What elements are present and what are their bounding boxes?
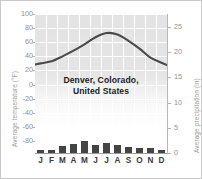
- month-label: F: [46, 156, 57, 165]
- left-tick-label: 60: [17, 38, 33, 45]
- left-tick-label: 80: [17, 24, 33, 31]
- left-tick-label: 0: [17, 81, 33, 88]
- right-tick-label: 5: [174, 124, 178, 131]
- precipitation-bar: [114, 145, 121, 153]
- right-axis-spine: [167, 14, 168, 154]
- location-line-2: United States: [35, 86, 167, 97]
- right-tick-mark: [168, 128, 171, 129]
- month-label: A: [68, 156, 79, 165]
- left-tick-label: -20: [17, 95, 33, 102]
- right-tick-mark: [168, 153, 171, 154]
- right-tick-mark: [168, 103, 171, 104]
- right-tick-mark: [168, 52, 171, 53]
- left-tick-label: 20: [17, 66, 33, 73]
- precipitation-bar: [103, 143, 110, 153]
- precipitation-bar: [92, 145, 99, 153]
- climate-chart: Average temperature (°F) Average precipi…: [0, 0, 202, 179]
- right-tick-label: 25: [174, 23, 182, 30]
- location-annotation: Denver, Colorado, United States: [35, 75, 167, 96]
- left-tick-label: -80: [17, 137, 33, 144]
- month-label: D: [156, 156, 167, 165]
- left-tick-label: 40: [17, 52, 33, 59]
- x-axis-baseline: [35, 153, 168, 154]
- month-label: J: [101, 156, 112, 165]
- right-tick-label: 15: [174, 73, 182, 80]
- month-label: N: [145, 156, 156, 165]
- left-axis-ticks: 100806040200-20-40-60-80: [15, 1, 33, 179]
- month-label: J: [35, 156, 46, 165]
- month-label: A: [112, 156, 123, 165]
- right-tick-label: 20: [174, 48, 182, 55]
- month-label: M: [57, 156, 68, 165]
- right-tick-mark: [168, 27, 171, 28]
- right-tick-mark: [168, 77, 171, 78]
- left-tick-label: 100: [17, 10, 33, 17]
- month-label: J: [90, 156, 101, 165]
- right-tick-label: 10: [174, 99, 182, 106]
- month-label: M: [79, 156, 90, 165]
- right-axis-title: Average precipitation (in): [193, 78, 200, 153]
- month-label: S: [123, 156, 134, 165]
- month-axis-labels: JFMAMJJASOND: [35, 156, 167, 170]
- precipitation-bar: [70, 144, 77, 153]
- left-tick-label: -40: [17, 109, 33, 116]
- left-tick-label: -60: [17, 123, 33, 130]
- right-axis-ticks: 2520151050: [171, 1, 191, 179]
- right-tick-label: 0: [174, 149, 178, 156]
- location-line-1: Denver, Colorado,: [35, 75, 167, 86]
- month-label: O: [134, 156, 145, 165]
- precipitation-bar: [81, 141, 88, 153]
